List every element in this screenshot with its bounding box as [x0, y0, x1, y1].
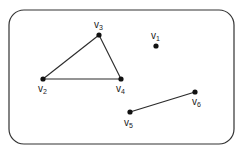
vertex-label-v5: v5 — [124, 117, 133, 129]
vertex-v2 — [40, 76, 45, 81]
edges-group — [43, 35, 195, 112]
vertices-group — [40, 32, 197, 114]
vertex-label-v2: v2 — [38, 83, 47, 95]
vertex-v4 — [118, 76, 123, 81]
edge-v5-v6 — [130, 92, 195, 112]
graph-diagram: v1v2v3v4v5v6 — [0, 0, 243, 153]
vertex-v5 — [127, 109, 132, 114]
vertex-v3 — [96, 32, 101, 37]
labels-group: v1v2v3v4v5v6 — [38, 19, 201, 129]
vertex-label-v6: v6 — [192, 96, 201, 108]
vertex-label-v3: v3 — [94, 19, 103, 31]
vertex-v1 — [153, 43, 158, 48]
vertex-v6 — [192, 89, 197, 94]
edge-v3-v4 — [99, 35, 121, 79]
edge-v2-v3 — [43, 35, 99, 79]
vertex-label-v1: v1 — [151, 30, 160, 42]
vertex-label-v4: v4 — [116, 83, 125, 95]
